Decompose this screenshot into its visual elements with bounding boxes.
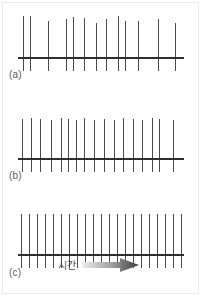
spike-train-figure: (a) (b) (c) 시간 [0,0,202,296]
spike [149,214,150,268]
spike [29,214,30,268]
spike [31,118,32,172]
spike [106,19,107,71]
time-direction-arrow-icon [82,258,140,272]
baseline-b [18,158,184,160]
spike [175,23,176,71]
baseline-a [18,57,184,59]
panel-label-a: (a) [9,69,22,80]
panel-label-b: (b) [9,170,22,181]
spike [118,16,119,71]
panel-a: (a) [0,0,202,99]
spike [133,119,134,172]
spike [73,17,74,71]
spike [125,21,126,71]
spike [173,120,174,172]
panel-c: (c) 시간 [0,197,202,296]
spike [157,214,158,268]
spike [181,214,182,268]
spike [165,214,166,268]
spike [159,119,160,172]
spike [84,18,85,71]
time-axis-label: 시간 [58,257,76,272]
spike [51,120,52,172]
spike [84,118,85,172]
spike [138,21,139,71]
spike [23,16,24,71]
time-axis-annotation: 시간 [58,257,140,272]
spike [30,16,31,71]
baseline-c [18,254,184,256]
spike [158,19,159,71]
spike [114,120,115,172]
spike [45,214,46,268]
spike-raster-a [18,11,183,71]
spike [173,214,174,268]
spike [94,120,95,172]
spike [22,119,23,172]
spike [48,21,49,71]
spike [61,118,62,172]
spike [123,118,124,172]
spike [152,118,153,172]
spike [142,120,143,172]
spike [21,214,22,268]
panel-b: (b) [0,99,202,198]
panel-label-c: (c) [9,267,21,278]
spike [76,120,77,172]
spike [66,19,67,71]
spike [37,214,38,268]
spike-raster-b [18,112,183,172]
spike [96,23,97,71]
spike [40,119,41,172]
spike [141,214,142,268]
spike [104,119,105,172]
spike [53,214,54,268]
spike [68,119,69,172]
